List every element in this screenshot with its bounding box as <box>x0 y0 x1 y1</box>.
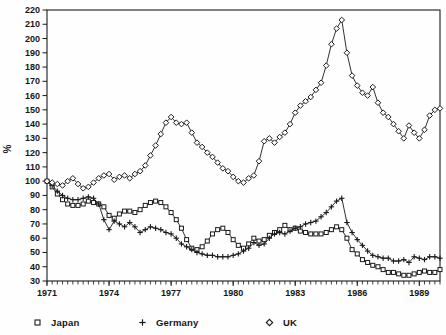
legend-item-uk: UK <box>265 313 297 331</box>
x-axis: 1971197419771980198319861989 <box>37 281 440 298</box>
svg-text:1986: 1986 <box>347 288 367 298</box>
y-axis: 3040506070809010011012013014015016017018… <box>25 5 47 286</box>
legend-label-uk: UK <box>283 317 297 328</box>
square-marker-icon <box>33 318 42 327</box>
legend-label-japan: Japan <box>51 317 79 328</box>
svg-text:120: 120 <box>25 148 40 158</box>
svg-text:1983: 1983 <box>285 288 305 298</box>
svg-text:1974: 1974 <box>99 288 119 298</box>
plot-area: 3040506070809010011012013014015016017018… <box>0 0 446 335</box>
svg-text:220: 220 <box>25 5 40 15</box>
svg-text:140: 140 <box>25 119 40 129</box>
svg-text:60: 60 <box>30 233 40 243</box>
svg-text:190: 190 <box>25 48 40 58</box>
svg-text:210: 210 <box>25 19 40 29</box>
plus-marker-icon <box>138 318 147 327</box>
svg-text:50: 50 <box>30 247 40 257</box>
svg-text:110: 110 <box>25 162 40 172</box>
exchange-rate-index-chart: % 30405060708090100110120130140150160170… <box>0 0 446 335</box>
svg-text:30: 30 <box>30 276 40 286</box>
series-uk <box>44 17 443 191</box>
diamond-marker-icon <box>265 318 274 327</box>
legend-item-germany: Germany <box>138 313 199 331</box>
legend-label-germany: Germany <box>156 317 199 328</box>
svg-text:40: 40 <box>30 262 40 272</box>
svg-text:150: 150 <box>25 105 40 115</box>
svg-text:100: 100 <box>25 176 40 186</box>
legend-item-japan: Japan <box>33 313 79 331</box>
svg-text:170: 170 <box>25 76 40 86</box>
svg-text:90: 90 <box>30 190 40 200</box>
series-japan <box>45 179 442 277</box>
svg-text:1971: 1971 <box>37 288 57 298</box>
svg-text:1980: 1980 <box>223 288 243 298</box>
svg-text:70: 70 <box>30 219 40 229</box>
svg-text:200: 200 <box>25 34 40 44</box>
svg-text:160: 160 <box>25 91 40 101</box>
series-germany <box>44 178 442 265</box>
svg-text:180: 180 <box>25 62 40 72</box>
legend: Japan Germany UK <box>0 313 446 333</box>
svg-text:1989: 1989 <box>409 288 429 298</box>
svg-text:130: 130 <box>25 133 40 143</box>
svg-text:1977: 1977 <box>161 288 181 298</box>
plot-frame <box>47 10 440 281</box>
svg-text:80: 80 <box>30 205 40 215</box>
